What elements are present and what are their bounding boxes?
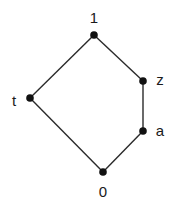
hasse-diagram: 1zta0: [0, 0, 172, 210]
node-label-zero: 0: [99, 183, 107, 200]
node-label-one: 1: [90, 9, 98, 26]
node-label-z: z: [156, 71, 164, 88]
edge-t-zero: [30, 98, 103, 172]
edge-a-zero: [103, 131, 143, 172]
nodes: [26, 31, 147, 176]
diagram-svg: 1zta0: [0, 0, 172, 210]
node-a: [139, 127, 147, 135]
node-one: [90, 31, 98, 39]
node-label-a: a: [156, 122, 165, 139]
edge-one-z: [94, 35, 143, 81]
edge-one-t: [30, 35, 94, 98]
node-t: [26, 94, 34, 102]
node-label-t: t: [12, 92, 17, 109]
labels: 1zta0: [12, 9, 165, 200]
edges: [30, 35, 143, 172]
node-z: [139, 77, 147, 85]
node-zero: [99, 168, 107, 176]
